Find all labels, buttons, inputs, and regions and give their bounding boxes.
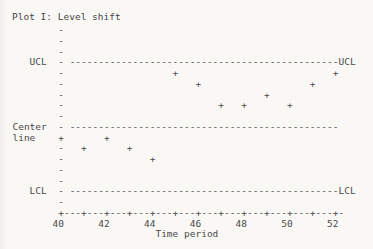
control-chart: - - - UCL - --------- [1,25,356,240]
scanned-page-background: Plot I: Level shift - - - [0,0,373,249]
plot-title: Plot I: Level shift [12,11,121,22]
